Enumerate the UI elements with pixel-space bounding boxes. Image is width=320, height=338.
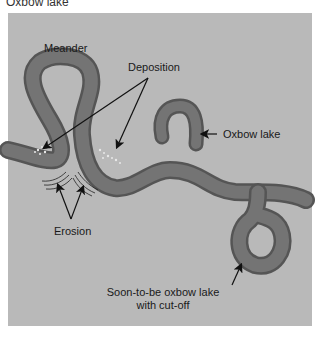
soon-oxbow-loop	[239, 192, 282, 266]
label-meander: Meander	[44, 42, 87, 55]
label-erosion: Erosion	[54, 225, 91, 238]
label-oxbow-lake: Oxbow lake	[223, 128, 280, 141]
label-soon-to-be-oxbow: Soon-to-be oxbow lake with cut-off	[98, 286, 228, 312]
label-soon-line2: with cut-off	[98, 299, 228, 312]
label-soon-line1: Soon-to-be oxbow lake	[98, 286, 228, 299]
label-deposition: Deposition	[128, 61, 180, 74]
oxbow-lake	[161, 106, 197, 144]
